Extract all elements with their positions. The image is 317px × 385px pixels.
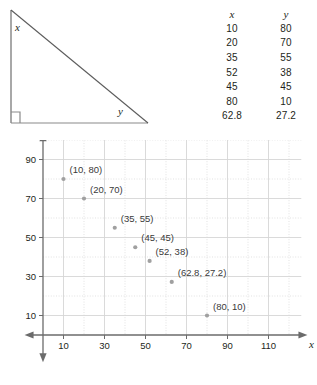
table-cell-x: 80 — [205, 94, 259, 109]
table-row: 2070 — [205, 36, 313, 51]
y-axis-tick-label: 90 — [25, 154, 36, 165]
triangle-hypotenuse — [11, 10, 148, 123]
table-cell-y: 10 — [259, 94, 313, 109]
x-axis-arrow-right — [298, 331, 307, 338]
table-cell-x: 62.8 — [205, 109, 259, 124]
data-point — [133, 245, 137, 249]
y-axis-tick-label: 70 — [25, 193, 36, 204]
table-header-row: x y — [205, 6, 313, 21]
table-cell-y: 27.2 — [259, 109, 313, 124]
table-row: 62.827.2 — [205, 109, 313, 124]
table-cell-x: 20 — [205, 36, 259, 51]
data-point-label: (62.8, 27.2) — [178, 267, 227, 278]
right-angle-icon — [11, 112, 20, 123]
table-cell-x: 52 — [205, 65, 259, 80]
scatter-plot-svg: 10305070901101030507090 (10, 80)(20, 70)… — [0, 140, 317, 385]
data-point — [205, 313, 209, 317]
table-cell-x: 10 — [205, 21, 259, 36]
data-point-label: (80, 10) — [213, 301, 246, 312]
y-axis-tick-label: 10 — [25, 310, 36, 321]
table-cell-y: 70 — [259, 36, 313, 51]
y-axis-arrow-down — [39, 353, 46, 362]
data-point — [113, 226, 117, 230]
triangle-svg — [0, 0, 170, 140]
data-point-label: (20, 70) — [90, 184, 123, 195]
table-cell-y: 45 — [259, 79, 313, 94]
x-axis-arrow-left — [25, 331, 34, 338]
triangle-angle-label-y: y — [118, 106, 123, 117]
data-point — [82, 196, 86, 200]
table-row: 5238 — [205, 65, 313, 80]
table-header-x: x — [205, 6, 259, 21]
triangle-angle-label-x: x — [15, 22, 20, 33]
table-cell-y: 80 — [259, 21, 313, 36]
table-row: 8010 — [205, 94, 313, 109]
triangle-figure: x y — [0, 0, 170, 140]
x-axis-tick-label: 10 — [58, 340, 69, 351]
table-row: 3555 — [205, 50, 313, 65]
data-point-label: (45, 45) — [141, 232, 174, 243]
table-row: 1080 — [205, 21, 313, 36]
x-axis-tick-label: 50 — [140, 340, 151, 351]
data-point-label: (35, 55) — [121, 213, 154, 224]
table-header-y: y — [259, 6, 313, 21]
table-cell-y: 55 — [259, 50, 313, 65]
data-point — [170, 280, 174, 284]
table-cell-x: 45 — [205, 79, 259, 94]
x-axis-tick-label: 70 — [181, 340, 192, 351]
x-axis-tick-label: 90 — [222, 340, 233, 351]
data-point-label: (10, 80) — [70, 164, 103, 175]
data-point — [148, 259, 152, 263]
y-axis-tick-label: 30 — [25, 271, 36, 282]
x-axis-tick-label: 30 — [99, 340, 110, 351]
axis-tick-labels: 10305070901101030507090 — [25, 154, 276, 351]
value-table: x y 10802070355552384545801062.827.2 — [205, 6, 313, 123]
table-body: 10802070355552384545801062.827.2 — [205, 21, 313, 123]
table-row: 4545 — [205, 79, 313, 94]
y-axis-arrow-up — [39, 140, 46, 141]
axis-ticks — [39, 160, 269, 340]
x-axis-name: x — [308, 338, 314, 350]
data-point-label: (52, 38) — [156, 246, 189, 257]
data-point — [61, 177, 65, 181]
table-cell-x: 35 — [205, 50, 259, 65]
y-axis-tick-label: 50 — [25, 232, 36, 243]
scatter-plot: 10305070901101030507090 (10, 80)(20, 70)… — [0, 140, 317, 385]
table-cell-y: 38 — [259, 65, 313, 80]
x-axis-tick-label: 110 — [261, 340, 276, 351]
